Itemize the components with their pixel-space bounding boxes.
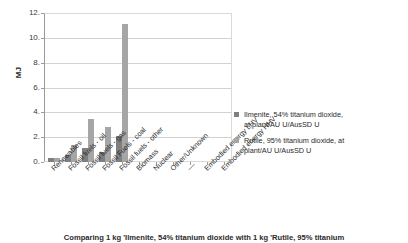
y-tick-label: 4.	[0, 108, 40, 116]
y-tick-label: 6.	[0, 84, 40, 92]
bar-group	[165, 14, 182, 162]
legend-label-ilmenite-line1: Ilmenite, 54% titanium dioxide,	[244, 110, 406, 120]
legend-item-ilmenite[interactable]: Ilmenite, 54% titanium dioxide, at plant…	[234, 110, 406, 129]
legend-swatch-icon-ilmenite	[234, 112, 239, 117]
legend-item-rutile[interactable]: Rutile, 95% titanium dioxide, at plant/A…	[234, 136, 406, 155]
x-axis-tick-label: —	[186, 161, 197, 172]
legend-label-ilmenite-line2: at plant/AU U/AusSD U	[244, 120, 406, 130]
legend-label-rutile-line2: plant/AU U/AusSD U	[244, 146, 406, 156]
x-axis-labels: RenewablesFossil fuels - oilFossil fuels…	[0, 162, 260, 237]
legend: Ilmenite, 54% titanium dioxide, at plant…	[234, 110, 406, 162]
y-tick-label: 10.	[0, 34, 40, 42]
chart-caption: Comparing 1 kg 'Ilmenite, 54% titanium d…	[0, 233, 408, 242]
y-tick-label: 12.	[0, 9, 40, 17]
bar-chart: MJ 0.2.4.6.8.10.12. RenewablesFossil fue…	[0, 0, 408, 243]
bar-group	[45, 14, 62, 162]
legend-swatch-icon-rutile	[234, 138, 239, 143]
y-tick-label: 8.	[0, 59, 40, 67]
y-tick-label: 2.	[0, 133, 40, 141]
legend-label-rutile-line1: Rutile, 95% titanium dioxide, at	[244, 136, 406, 146]
